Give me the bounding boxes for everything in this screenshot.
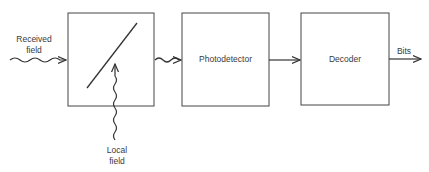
received-field-label: Received field — [14, 34, 54, 56]
received-field-label-line2: field — [14, 45, 54, 56]
local-field-label-line1: Local — [97, 145, 137, 156]
received-field-wave-arrow — [10, 58, 66, 62]
mixer-to-photodetector-wave-arrow — [155, 58, 181, 62]
local-field-label: Local field — [97, 145, 137, 167]
mixer-block — [68, 13, 154, 106]
local-field-label-line2: field — [97, 156, 137, 167]
photodetector-label: Photodetector — [182, 54, 269, 65]
beam-splitter-line — [87, 23, 137, 88]
bits-label: Bits — [392, 46, 416, 57]
local-field-wave-arrow — [114, 64, 117, 140]
decoder-label: Decoder — [301, 54, 389, 65]
diagram-canvas — [0, 0, 429, 172]
received-field-label-line1: Received — [14, 34, 54, 45]
